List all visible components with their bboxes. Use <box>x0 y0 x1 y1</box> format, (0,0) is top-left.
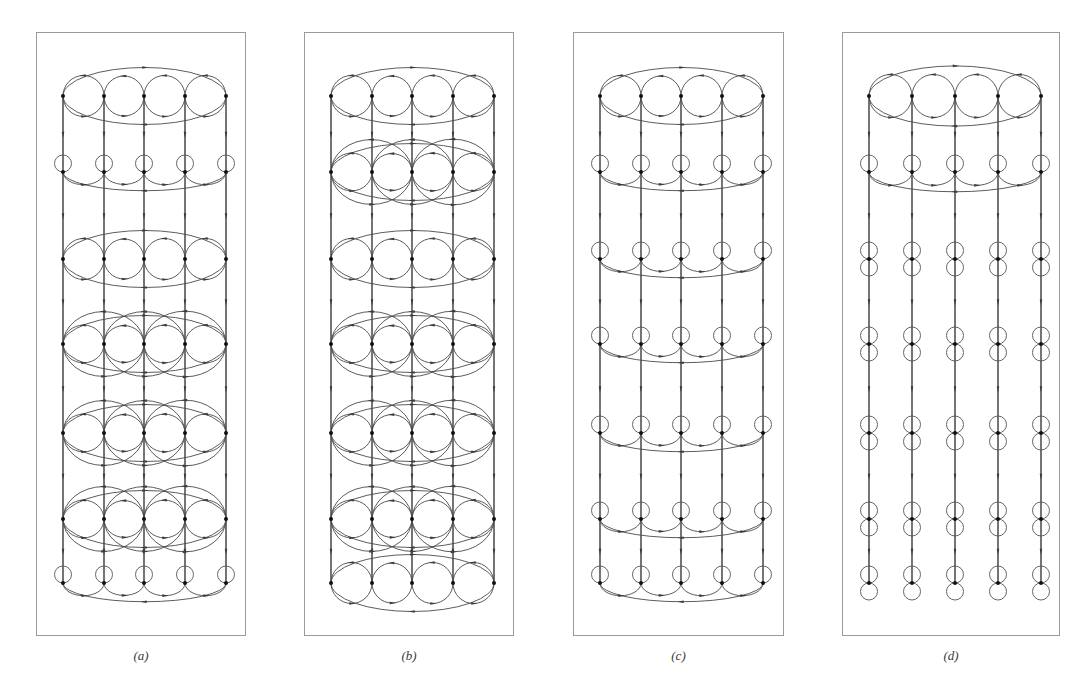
node-r5c1 <box>598 431 602 435</box>
edge-arrowhead <box>367 399 373 402</box>
edge-arrowhead <box>122 183 128 186</box>
pair-arc-upper <box>998 75 1041 96</box>
edge-arrowhead <box>122 450 128 453</box>
node-r2c3 <box>410 170 414 174</box>
panel-c <box>573 32 784 636</box>
node-r5c3 <box>953 431 957 435</box>
lower-arc <box>63 172 104 185</box>
node-r5c4 <box>996 431 1000 435</box>
self-loop <box>861 583 878 600</box>
edge-arrowhead <box>451 375 457 378</box>
pair-arc-upper <box>453 563 494 584</box>
node-r7c1 <box>867 581 871 585</box>
pair-arc-lower <box>955 96 998 118</box>
pair-arc-lower <box>144 519 185 538</box>
node-r4c2 <box>639 342 643 346</box>
edge-arrowhead <box>451 550 457 553</box>
node-r2c1 <box>867 170 871 174</box>
node-r7c2 <box>102 581 106 585</box>
node-r7c5 <box>761 581 765 585</box>
node-r4c1 <box>867 342 871 346</box>
edge-arrowhead <box>428 324 434 327</box>
node-r1c4 <box>183 94 187 98</box>
pair-arc-lower <box>412 433 453 452</box>
node-r7c5 <box>1039 581 1043 585</box>
edge-arrowhead <box>430 115 436 118</box>
edge-arrowhead <box>120 238 126 241</box>
node-r2c4 <box>720 170 724 174</box>
node-r1c2 <box>102 94 106 98</box>
edge-arrowhead <box>699 355 705 358</box>
lower-arc <box>869 172 912 185</box>
pair-arc-upper <box>372 415 412 433</box>
edge-arrowhead <box>659 444 665 447</box>
edge-arrowhead <box>428 237 434 240</box>
lower-arc <box>722 172 763 185</box>
node-r1c1 <box>61 94 65 98</box>
node-r1c4 <box>720 94 724 98</box>
edge-arrowhead <box>410 403 416 406</box>
figure-root: (a)(b)(c)(d) <box>0 0 1090 694</box>
pair-arc-lower <box>453 259 494 280</box>
node-r2c4 <box>451 170 455 174</box>
node-r3c1 <box>598 257 602 261</box>
pair-arc-lower <box>331 172 372 191</box>
node-r7c2 <box>910 581 914 585</box>
node-r2c5 <box>1039 170 1043 174</box>
edge-arrowhead <box>699 530 705 533</box>
pair-arc-upper <box>453 414 494 433</box>
pair-arc-lower <box>372 172 412 190</box>
edge-arrowhead <box>388 152 394 155</box>
edge-arrowhead <box>181 485 187 488</box>
edge-arrowhead <box>388 562 394 565</box>
panel-graph-a <box>37 33 247 637</box>
edge-arrowhead <box>120 413 126 416</box>
lower-arc <box>600 172 641 185</box>
edge-arrowhead <box>162 362 168 365</box>
node-r2c3 <box>679 170 683 174</box>
pair-arc-upper <box>185 500 226 519</box>
node-r4c3 <box>410 342 414 346</box>
edge-arrowhead <box>697 74 703 77</box>
pair-arc-lower <box>641 96 681 116</box>
edge-arrowhead <box>183 464 189 467</box>
node-r4c4 <box>720 342 724 346</box>
node-r5c2 <box>639 431 643 435</box>
pair-arc-upper <box>453 76 494 97</box>
pair-arc-upper <box>104 415 144 433</box>
column-lines <box>868 96 1043 583</box>
lower-arc <box>722 259 763 272</box>
edge-arrowhead <box>953 65 959 68</box>
pair-arc-lower <box>185 259 226 280</box>
edge-arrowhead <box>430 362 436 365</box>
pair-arc-upper <box>144 414 185 433</box>
edge-arrowhead <box>390 115 396 118</box>
node-r1c2 <box>910 94 914 98</box>
lower-arc <box>185 172 226 185</box>
edge-arrowhead <box>99 485 105 488</box>
pair-arc-upper <box>412 563 453 584</box>
pair-arc-upper <box>412 414 453 433</box>
pair-arc-lower <box>144 96 185 117</box>
edge-arrowhead <box>347 237 353 240</box>
lower-arc <box>641 259 681 271</box>
edge-arrowhead <box>430 537 436 540</box>
node-r3c4 <box>996 257 1000 261</box>
edge-arrowhead <box>142 489 148 492</box>
node-r4c1 <box>329 342 333 346</box>
self-loop <box>1033 583 1050 600</box>
edge-arrowhead <box>388 75 394 78</box>
lower-arc <box>722 583 763 596</box>
node-r6c3 <box>953 517 957 521</box>
edge-arrowhead <box>410 464 416 467</box>
pair-arc-upper <box>412 500 453 519</box>
node-r3c2 <box>910 257 914 261</box>
edge-arrowhead <box>181 399 187 402</box>
pair-arc-lower <box>144 259 185 280</box>
pair-arc-lower <box>185 433 226 452</box>
edge-arrowhead <box>410 203 416 206</box>
pair-arc-upper <box>372 326 412 344</box>
edge-arrowhead <box>79 74 85 77</box>
panel-label-d: (d) <box>842 648 1060 664</box>
edge-arrowhead <box>388 324 394 327</box>
